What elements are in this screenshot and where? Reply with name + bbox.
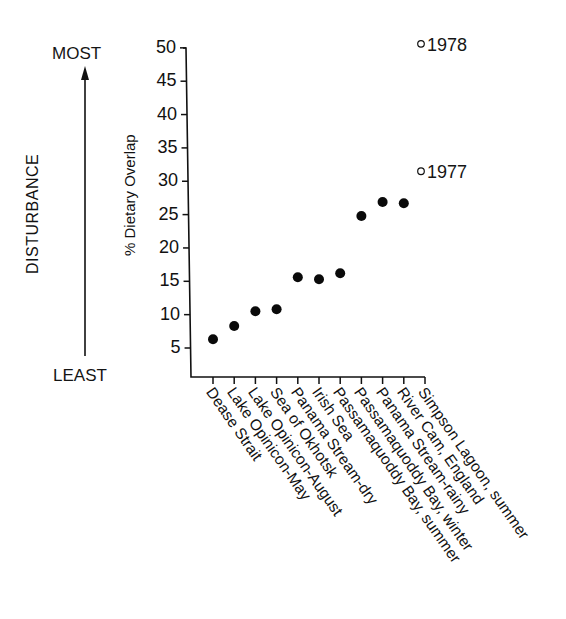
arrow-up-icon (81, 66, 89, 80)
y-axis-title: % Dietary Overlap (121, 134, 138, 256)
scatter-plot (0, 0, 566, 619)
data-point-filled (399, 198, 409, 208)
y-tick-label: 15 (146, 270, 180, 291)
data-point-filled (378, 197, 388, 207)
y-tick-label: 10 (146, 304, 180, 325)
annotation-1977: 1977 (427, 162, 467, 183)
annotation-1978: 1978 (427, 35, 467, 56)
data-point-filled (250, 306, 260, 316)
data-point-filled (293, 272, 303, 282)
data-point-filled (229, 321, 239, 331)
axes (183, 48, 425, 377)
y-tick-label: 40 (143, 104, 177, 125)
data-point-filled (356, 211, 366, 221)
y-tick-label: 25 (145, 204, 179, 225)
data-point-filled (335, 268, 345, 278)
y-tick-label: 35 (144, 137, 178, 158)
data-point-open (418, 168, 425, 175)
most-label: MOST (52, 44, 101, 64)
y-tick-label: 50 (142, 37, 176, 58)
x-ticks (213, 377, 425, 384)
y-tick-label: 20 (145, 237, 179, 258)
data-point-filled (272, 304, 282, 314)
y-tick-label: 30 (144, 170, 178, 191)
data-point-filled (314, 274, 324, 284)
least-label: LEAST (53, 366, 107, 386)
data-points (208, 41, 424, 345)
data-point-filled (208, 334, 218, 344)
data-point-open (418, 41, 425, 48)
y-tick-label: 45 (143, 70, 177, 91)
disturbance-label: DISTURBANCE (24, 154, 42, 274)
y-tick-label: 5 (147, 337, 181, 358)
